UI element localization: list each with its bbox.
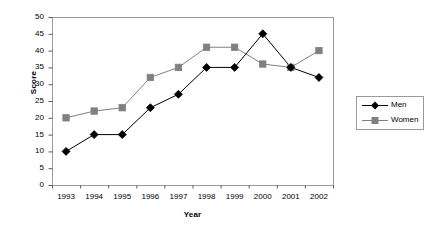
legend-label-men: Men	[391, 100, 407, 109]
legend-swatch-women	[359, 113, 391, 128]
legend-label-women: Women	[391, 115, 418, 124]
legend-item-men: Men	[357, 98, 423, 113]
chart-legend: Men Women	[356, 96, 424, 130]
legend-item-women: Women	[357, 113, 423, 128]
line-chart: Score Year 05101520253035404550 19931994…	[0, 0, 438, 235]
legend-swatch-men	[359, 98, 391, 113]
